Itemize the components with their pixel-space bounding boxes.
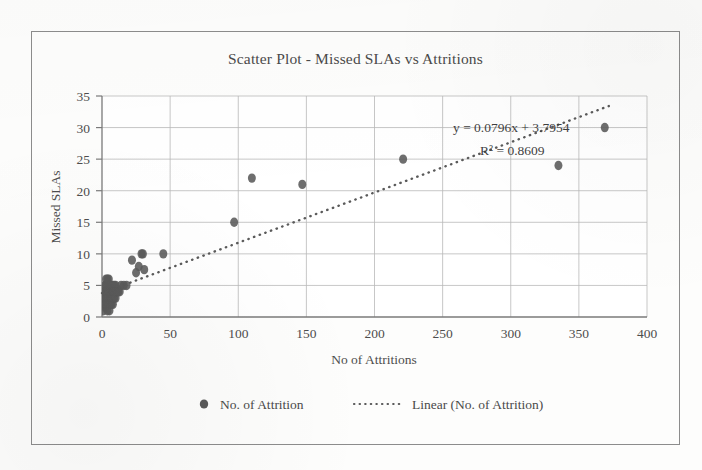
trendline-r-squared-label: R² = 0.8609 [480,143,545,158]
x-tick-label-100: 100 [228,326,249,341]
data-point [601,123,609,132]
x-tick-label-200: 200 [364,326,385,341]
y-tick-label-5: 5 [83,278,90,293]
legend-label-trendline: Linear (No. of Attrition) [412,397,543,412]
data-point [298,180,306,189]
data-point [139,249,147,258]
y-tick-label-0: 0 [83,310,90,325]
y-tick-label-10: 10 [77,247,91,262]
x-tick-label-150: 150 [296,326,317,341]
data-point [159,249,167,258]
y-axis-ticks [96,96,102,317]
trendline-equation-label: y = 0.0796x + 3.7954 [453,120,570,135]
data-point [399,154,407,163]
x-tick-label-0: 0 [99,326,106,341]
chart-legend: No. of Attrition Linear (No. of Attritio… [200,397,543,412]
x-tick-label-50: 50 [163,326,177,341]
legend-marker-scatter [200,399,208,408]
legend-label-scatter: No. of Attrition [220,397,304,412]
x-tick-label-300: 300 [501,326,522,341]
y-tick-label-15: 15 [77,215,91,230]
chart-frame: Scatter Plot - Missed SLAs vs Attritions [31,31,680,445]
data-point [230,218,238,227]
y-tick-label-20: 20 [77,184,91,199]
scatter-plot-svg: 35 30 25 20 15 10 5 0 0 50 100 150 200 2… [32,32,681,446]
y-tick-label-25: 25 [77,152,91,167]
data-point [140,265,148,274]
data-point [554,161,562,170]
x-axis-title: No of Attritions [331,352,417,367]
x-tick-label-350: 350 [569,326,590,341]
y-axis-title: Missed SLAs [48,170,63,243]
y-tick-label-35: 35 [77,89,91,104]
x-tick-label-250: 250 [433,326,454,341]
data-point [248,173,256,182]
scanned-page-background: Scatter Plot - Missed SLAs vs Attritions [0,0,702,470]
data-point [128,255,136,264]
y-tick-label-30: 30 [77,121,91,136]
x-tick-label-400: 400 [637,326,658,341]
